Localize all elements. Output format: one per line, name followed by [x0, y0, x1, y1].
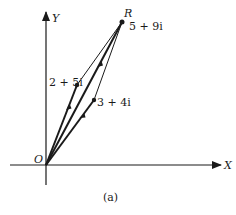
y-axis-label: Y — [52, 12, 61, 25]
complex-addition-diagram: Y X O R 5 + 9i 2 + 5i 3 + 4i (a) — [0, 0, 236, 215]
point-z2-value: 3 + 4i — [97, 96, 131, 109]
edge-z2-to-R — [94, 22, 122, 100]
origin-label: O — [34, 153, 43, 166]
point-z2 — [92, 98, 96, 102]
vector-O-to-z2 — [46, 100, 94, 165]
x-axis-label: X — [223, 159, 233, 172]
vector-O-to-z1 — [46, 85, 77, 165]
point-z1-value: 2 + 5i — [49, 76, 83, 89]
point-R-label: R — [123, 7, 132, 20]
point-R-value: 5 + 9i — [129, 20, 163, 33]
edge-z1-to-R — [77, 22, 122, 85]
vector-O-to-R — [46, 22, 122, 165]
figure-caption: (a) — [103, 191, 118, 204]
point-R — [120, 20, 125, 25]
